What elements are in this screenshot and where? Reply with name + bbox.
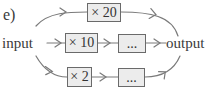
box-times-10: × 10	[65, 33, 98, 53]
bottom-path-in	[36, 56, 67, 77]
box-bottom-ellipsis: ...	[118, 68, 145, 87]
box-middle-ellipsis: ...	[118, 34, 146, 53]
box-times-2: × 2	[67, 67, 92, 87]
bottom-path-out	[145, 56, 180, 77]
input-label: input	[2, 36, 33, 51]
top-path-out	[121, 12, 178, 36]
top-path-in	[36, 12, 87, 26]
part-label: e)	[3, 7, 15, 23]
function-machine-diagram: e) input output × 20 × 10 ... × 2 ...	[0, 0, 211, 98]
box-times-20: × 20	[87, 3, 121, 22]
output-label: output	[166, 36, 204, 51]
